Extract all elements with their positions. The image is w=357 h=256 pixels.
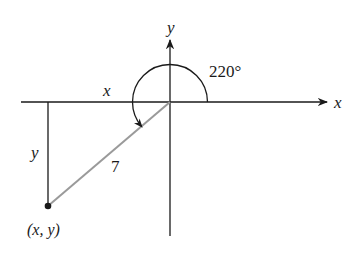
diagram-svg: y x 220° x y 7 (x, y) <box>0 0 357 256</box>
point-label: (x, y) <box>27 221 60 239</box>
vertical-leg-label: y <box>29 143 39 162</box>
y-axis-label: y <box>165 18 175 37</box>
angle-label: 220° <box>209 62 241 81</box>
x-axis-label: x <box>333 93 342 112</box>
hypotenuse-label: 7 <box>111 157 120 176</box>
diagram-canvas: y x 220° x y 7 (x, y) <box>0 0 357 256</box>
point-marker <box>45 203 52 210</box>
hypotenuse <box>48 102 170 206</box>
horizontal-leg-label: x <box>102 81 111 100</box>
